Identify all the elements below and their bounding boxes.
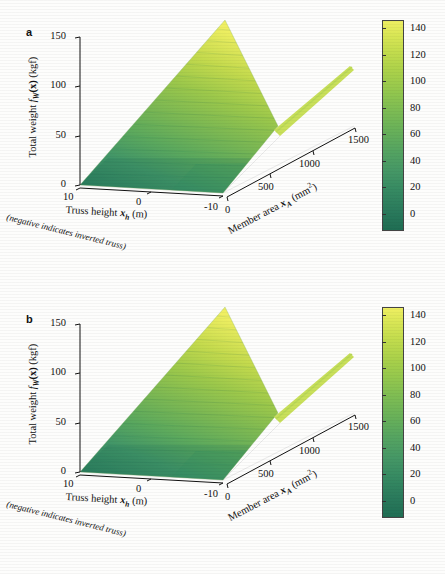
colorbar-tickmark-120-a: [382, 55, 386, 56]
colorbar-tick-40-b: 40: [410, 442, 421, 453]
colorbar-tickmark-40-b: [382, 448, 386, 449]
z-tick-100-b: 100: [36, 366, 66, 377]
surface-plot-a: Total weight fW(x) (kgf) 150 100 50 0 10…: [18, 8, 358, 280]
colorbar-tick-20-a: 20: [410, 181, 421, 192]
colorbar-tick-40-a: 40: [410, 155, 421, 166]
colorbar-tick-120-a: 120: [410, 49, 426, 60]
colorbar-tickmark-20-a: [382, 187, 386, 188]
colorbar-a: [382, 20, 404, 231]
colorbar-tickmark-20-b: [382, 474, 386, 475]
colorbar-tick-120-b: 120: [410, 336, 426, 347]
z-axis-label-a: Total weight fW(x) (kgf): [27, 27, 41, 187]
z-tick-0-a: 0: [36, 178, 66, 189]
panel-a: a: [0, 0, 445, 287]
z-tick-0-b: 0: [36, 465, 66, 476]
x-tick-500-b: 500: [258, 468, 274, 479]
panel-b: b: [0, 287, 445, 574]
colorbar-tick-0-a: 0: [410, 208, 415, 219]
colorbar-tickmark-120-b: [382, 342, 386, 343]
x-tick-1500-b: 1500: [348, 421, 369, 432]
surface-far-edge-a: [276, 67, 352, 132]
colorbar-tickmark-80-a: [382, 108, 386, 109]
colorbar-tick-140-a: 140: [410, 22, 426, 33]
colorbar-tick-80-b: 80: [410, 389, 421, 400]
colorbar-tick-60-b: 60: [410, 415, 421, 426]
colorbar-gradient-b: [383, 308, 403, 517]
colorbar-tick-20-b: 20: [410, 468, 421, 479]
z-tick-150-a: 150: [36, 30, 66, 41]
z-axis-a: [75, 37, 80, 186]
surface-plot-b: Total weight fW(x) (kgf) 150 100 50 0 10…: [18, 295, 358, 567]
colorbar-gradient-a: [383, 21, 403, 230]
z-tick-150-b: 150: [36, 317, 66, 328]
colorbar-tickmark-100-b: [382, 368, 386, 369]
surface-far-edge-b: [276, 354, 352, 419]
x-tick-500-a: 500: [258, 181, 274, 192]
x-tick-0-a: 0: [225, 204, 230, 215]
z-tick-100-a: 100: [36, 79, 66, 90]
colorbar-tickmark-0-a: [382, 214, 386, 215]
y-tick-10-a: 10: [63, 191, 74, 202]
z-axis-label-b: Total weight fW(x) (kgf): [27, 314, 41, 474]
colorbar-tickmark-140-a: [382, 28, 386, 29]
x-tick-1000-b: 1000: [299, 445, 320, 456]
colorbar-tickmark-140-b: [382, 315, 386, 316]
x-tick-1500-a: 1500: [348, 134, 369, 145]
surface-svg-a: [18, 8, 358, 280]
colorbar-tick-100-a: 100: [410, 75, 426, 86]
z-axis-b: [75, 324, 80, 473]
colorbar-tickmark-40-a: [382, 161, 386, 162]
colorbar-tickmark-80-b: [382, 395, 386, 396]
y-tick-neg10-a: -10: [204, 201, 218, 212]
colorbar-tickmark-60-b: [382, 421, 386, 422]
colorbar-tickmark-0-b: [382, 501, 386, 502]
colorbar-tick-60-a: 60: [410, 128, 421, 139]
colorbar-b: [382, 307, 404, 518]
y-tick-0-a: 0: [136, 196, 141, 207]
colorbar-tickmark-100-a: [382, 81, 386, 82]
surface-svg-b: [18, 295, 358, 567]
colorbar-tick-0-b: 0: [410, 495, 415, 506]
z-tick-50-b: 50: [36, 416, 66, 427]
x-tick-1000-a: 1000: [299, 158, 320, 169]
y-tick-neg10-b: -10: [204, 488, 218, 499]
y-tick-0-b: 0: [136, 483, 141, 494]
colorbar-tick-100-b: 100: [410, 362, 426, 373]
colorbar-tickmark-60-a: [382, 134, 386, 135]
z-tick-50-a: 50: [36, 129, 66, 140]
x-tick-0-b: 0: [225, 491, 230, 502]
colorbar-tick-80-a: 80: [410, 102, 421, 113]
y-tick-10-b: 10: [63, 478, 74, 489]
colorbar-tick-140-b: 140: [410, 309, 426, 320]
